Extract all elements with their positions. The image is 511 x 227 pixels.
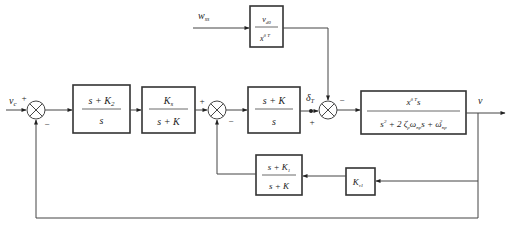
summing-junction-1: − [27,101,50,129]
svg-text:−: − [339,95,345,105]
svg-text:s: s [272,116,276,127]
svg-text:s + K: s + K [263,95,287,106]
feedback-filter-block: s + K1 s + K [256,155,302,195]
pickoff-point [309,109,313,113]
block-diagram: vc + − s + K2 s Ks s + K + − s + K s [0,0,511,227]
controller-block-1: s + K2 s [73,85,130,133]
svg-text:−: − [228,116,234,126]
svg-text:+: + [199,96,205,106]
svg-text:+: + [21,93,27,103]
summing-junction-3: − [319,95,345,119]
svg-text:s: s [100,115,104,126]
svg-text:wss: wss [198,10,210,22]
svg-text:s + K1: s + K1 [268,162,291,173]
controller-block-2: Ks s + K [142,87,195,133]
svg-text:+: + [309,117,315,127]
disturbance-block: vd0 xδ T [250,6,283,47]
svg-text:v: v [478,95,483,106]
svg-text:s + K: s + K [157,116,181,127]
feedback-gain-block: Kv1 [346,168,375,195]
delta-t-label: δT [306,92,315,104]
svg-text:−: − [44,119,50,129]
svg-text:s + K: s + K [269,181,290,191]
svg-text:vc: vc [9,95,17,108]
plant-block: xδ Ts s2 + 2 ζpωnps + ωnp2 [361,91,466,134]
svg-text:s2 + 2 ζpωnps + ωnp2: s2 + 2 ζpωnps + ωnp2 [380,119,447,130]
disturbance-input: wss [193,10,249,28]
summing-junction-2: − [208,101,234,126]
input-signal: vc + [6,93,27,110]
controller-block-3: s + K s [248,87,300,133]
output-signal: v [466,95,505,113]
